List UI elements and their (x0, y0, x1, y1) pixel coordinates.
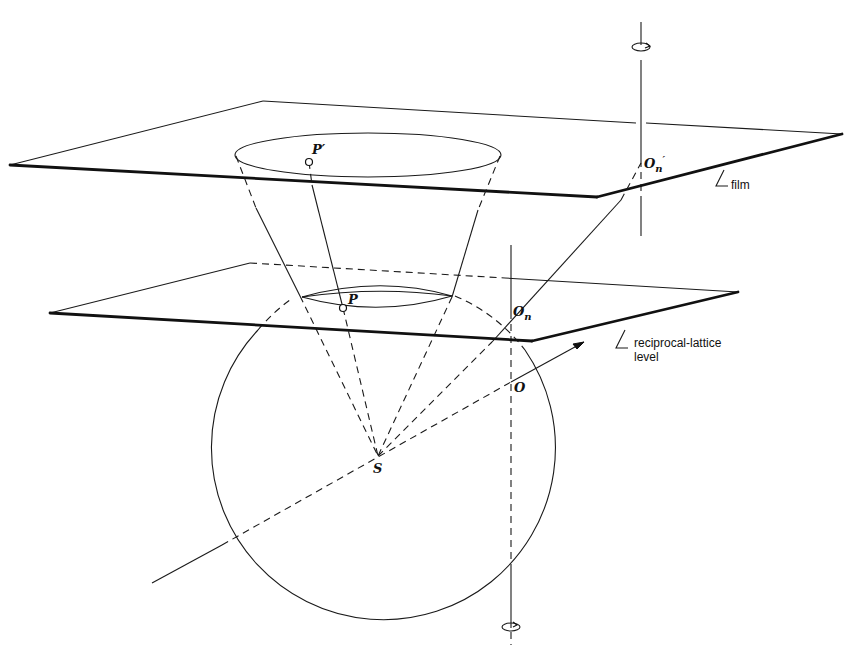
label-o-n-prime-sub: n (655, 163, 662, 174)
annotation-film: film (731, 178, 750, 192)
label-o-n-prime-main: O (644, 156, 655, 171)
label-p: P (348, 293, 358, 306)
label-o-n-sub: n (524, 311, 531, 322)
diffraction-geometry-diagram: P′ P On′ On O S film reciprocal-lattice … (0, 0, 858, 650)
sphere-of-reflection (211, 286, 555, 620)
label-p-prime: P′ (312, 143, 325, 156)
incident-beam-arrow (152, 342, 584, 583)
label-o-n-prime: On′ (644, 155, 665, 174)
point-p-marker (340, 305, 347, 312)
annotation-reciprocal-lattice-line2: level (634, 350, 659, 364)
point-p-prime-marker (306, 159, 313, 166)
lattice-leader-tick (616, 330, 628, 348)
label-o-n-prime-mark: ′ (663, 154, 666, 165)
label-s: S (373, 462, 382, 475)
label-o: O (514, 381, 525, 394)
label-o-n: On (513, 305, 532, 322)
label-o-n-main: O (513, 304, 524, 319)
film-leader-tick (716, 170, 728, 186)
annotation-reciprocal-lattice-line1: reciprocal-lattice (634, 336, 721, 350)
rotation-axis (511, 22, 641, 645)
reciprocal-lattice-level-plane (50, 263, 738, 341)
